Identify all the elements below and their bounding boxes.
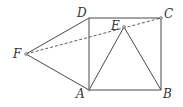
segment-fa [26,54,89,90]
point-e-marker [123,26,126,29]
geometry-diagram: D C E F A B [0,0,183,107]
label-c: C [164,7,173,21]
label-d: D [76,6,87,20]
segment-fd [26,18,89,54]
point-c-marker [160,17,163,20]
label-a: A [75,87,85,101]
point-f-marker [25,53,28,56]
segment-fc-dashed [26,18,161,54]
label-f: F [12,47,22,61]
point-a-marker [88,89,90,91]
segment-be [124,27,161,90]
label-b: B [162,87,172,101]
label-e: E [110,19,120,33]
segment-ae [89,27,124,90]
